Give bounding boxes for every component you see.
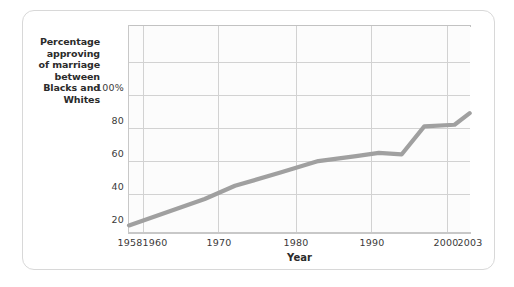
x-axis-tick-labels: 1958 1960 1970 1980 1990 2000 2003 (129, 237, 470, 251)
data-series-layer (129, 26, 470, 232)
x-tick-1990: 1990 (342, 237, 402, 248)
x-tick-1960: 1960 (125, 237, 185, 248)
chart-figure: Percentage approving of marriage between… (0, 0, 514, 287)
x-tick-2003: 2003 (440, 237, 500, 248)
y-tick-20: 20 (64, 214, 124, 225)
y-tick-80: 80 (64, 115, 124, 126)
x-tick-1970: 1970 (189, 237, 249, 248)
y-tick-40: 40 (64, 181, 124, 192)
y-axis-tick-labels: 100% 80 60 40 20 (62, 26, 124, 232)
plot-area (129, 26, 470, 232)
series-line-approval (129, 113, 470, 225)
y-tick-100: 100% (64, 82, 124, 93)
x-axis-line (128, 232, 471, 234)
x-axis-label: Year (129, 252, 470, 263)
y-tick-60: 60 (64, 148, 124, 159)
x-tick-1980: 1980 (266, 237, 326, 248)
